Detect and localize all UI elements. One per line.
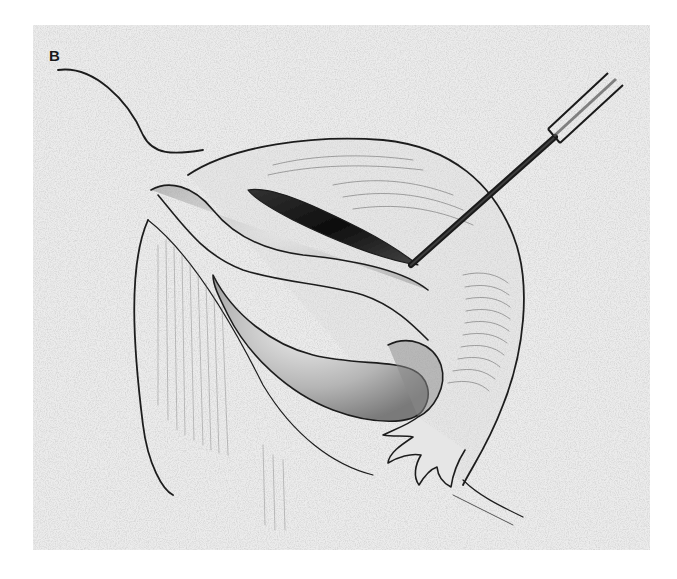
surgical-illustration [33, 25, 650, 550]
panel-label: B [49, 47, 60, 64]
illustration-panel: B [33, 25, 650, 550]
